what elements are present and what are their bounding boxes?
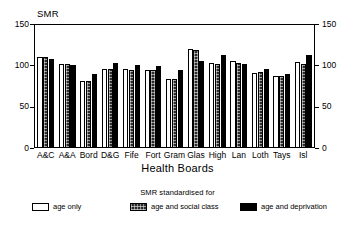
bar	[188, 49, 193, 148]
y-tick-label-left-0: 0	[3, 144, 29, 153]
bar	[236, 63, 241, 148]
y-tick-mark-right-150	[315, 24, 319, 25]
legend-swatch-icon	[240, 203, 257, 211]
bar	[199, 61, 204, 148]
y-tick-mark-right-100	[315, 65, 319, 66]
bar-group	[145, 24, 162, 148]
y-tick-mark-right-50	[315, 107, 319, 108]
bar	[264, 69, 269, 148]
bar	[258, 72, 263, 148]
bar	[230, 61, 235, 148]
bar-group	[273, 24, 290, 148]
y-tick-label-right-150: 150	[322, 20, 352, 29]
y-axis-title: SMR	[37, 8, 59, 19]
bar-group	[295, 24, 312, 148]
x-tick-label: Isl	[289, 150, 318, 160]
legend-label: age and deprivation	[261, 202, 327, 211]
y-tick-mark-left-0	[30, 148, 34, 149]
bar	[135, 65, 140, 148]
bar	[43, 57, 48, 148]
bar	[123, 69, 128, 148]
bar	[113, 63, 118, 148]
legend-title: SMR standardised for	[0, 188, 355, 197]
legend: age onlyage and social classage and depr…	[14, 202, 344, 216]
y-tick-mark-left-50	[30, 107, 34, 108]
bar	[273, 76, 278, 148]
y-tick-label-left-100: 100	[3, 61, 29, 70]
bar	[279, 76, 284, 148]
bar	[65, 64, 70, 148]
y-tick-mark-left-150	[30, 24, 34, 25]
bar-group	[252, 24, 269, 148]
bar	[215, 64, 220, 148]
smr-health-boards-bar-chart: SMR 150150100100505000 A&CA&ABordD&GFife…	[0, 0, 355, 228]
bar	[145, 70, 150, 148]
legend-label: age only	[53, 202, 81, 211]
y-tick-label-right-100: 100	[322, 61, 352, 70]
bar	[301, 64, 306, 148]
bar-group	[209, 24, 226, 148]
legend-label: age and social class	[151, 202, 219, 211]
x-axis-tick-labels: A&CA&ABordD&GFifeFortGramGlasHighLanLoth…	[35, 150, 314, 162]
bar	[37, 57, 42, 148]
bar-group	[37, 24, 54, 148]
bar	[92, 74, 97, 148]
y-tick-label-left-150: 150	[3, 20, 29, 29]
bar-group	[166, 24, 183, 148]
y-tick-label-left-50: 50	[3, 102, 29, 111]
bar-group	[59, 24, 76, 148]
bar	[295, 62, 300, 148]
bar	[108, 69, 113, 148]
bar-group	[102, 24, 119, 148]
bar-group	[80, 24, 97, 148]
y-tick-mark-left-100	[30, 65, 34, 66]
bar	[252, 73, 257, 148]
bar-group	[230, 24, 247, 148]
bar	[221, 55, 226, 148]
legend-swatch-icon	[130, 203, 147, 211]
y-tick-label-right-50: 50	[322, 102, 352, 111]
y-tick-mark-right-0	[315, 148, 319, 149]
bar	[150, 70, 155, 148]
bar	[80, 81, 85, 148]
bar	[49, 59, 54, 148]
bar	[166, 79, 171, 148]
legend-item[interactable]: age and social class	[130, 202, 219, 211]
bar	[86, 81, 91, 148]
bar	[129, 70, 134, 148]
bar	[193, 50, 198, 148]
bar	[242, 64, 247, 148]
x-axis-title: Health Boards	[0, 162, 355, 174]
bar-groups	[35, 24, 314, 148]
legend-item[interactable]: age and deprivation	[240, 202, 327, 211]
bar	[156, 66, 161, 148]
bar	[306, 55, 311, 148]
bar-group	[188, 24, 205, 148]
bar	[102, 69, 107, 148]
bar	[178, 70, 183, 148]
bar-group	[123, 24, 140, 148]
bar	[59, 64, 64, 148]
bar	[70, 65, 75, 148]
bar	[285, 74, 290, 148]
bar	[172, 79, 177, 148]
bar	[209, 63, 214, 148]
y-tick-label-right-0: 0	[322, 144, 352, 153]
legend-item[interactable]: age only	[32, 202, 81, 211]
legend-swatch-icon	[32, 203, 49, 211]
